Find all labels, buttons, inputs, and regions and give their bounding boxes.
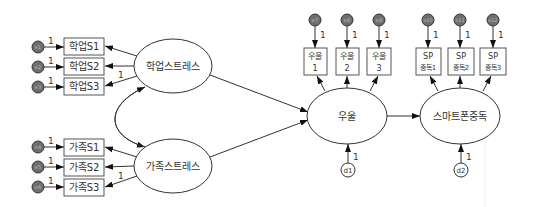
loading-label: 1 bbox=[118, 171, 124, 181]
loading-label: 1 bbox=[384, 30, 390, 40]
latent-academic-stress[interactable]: 학업스트레스 bbox=[134, 39, 212, 93]
loading-label: 1 bbox=[48, 136, 54, 146]
disturbance-label: d1 bbox=[344, 167, 353, 175]
error-label: e2 bbox=[35, 64, 41, 70]
disturbance-d2[interactable]: d2 1 bbox=[454, 144, 472, 177]
latent-label: 우울 bbox=[338, 111, 356, 122]
loading-label: 1 bbox=[465, 30, 471, 40]
error-label: e7 bbox=[312, 17, 318, 23]
indicator-label: 학업S3 bbox=[69, 80, 100, 92]
indicator-number: 3 bbox=[376, 64, 381, 73]
error-label: e9 bbox=[376, 17, 382, 23]
indicator-label: 우울 bbox=[372, 52, 386, 61]
latent-label: 학업스트레스 bbox=[146, 60, 200, 72]
loading-label: 1 bbox=[498, 30, 504, 40]
smartphone-indicator-1[interactable]: e10 1 SP 중독1 bbox=[416, 14, 441, 75]
academic-indicator-2[interactable]: e2 1 학업S2 bbox=[32, 56, 104, 75]
indicator-label: SP bbox=[488, 52, 498, 61]
loading-label: 1 bbox=[118, 70, 124, 80]
error-label: e12 bbox=[488, 17, 497, 23]
indicator-sublabel: 중독3 bbox=[485, 64, 501, 72]
error-label: e8 bbox=[344, 17, 350, 23]
loading-label: 1 bbox=[320, 30, 326, 40]
indicator-label: 가족S3 bbox=[69, 182, 100, 193]
latent-label: 가족스트레스 bbox=[146, 161, 200, 172]
latent-label: 스마트폰중독 bbox=[433, 111, 487, 122]
error-label: e4 bbox=[35, 144, 41, 150]
error-label: e5 bbox=[35, 164, 41, 170]
loading-label: 1 bbox=[352, 30, 358, 40]
depression-indicator-3[interactable]: e9 1 우울 3 bbox=[367, 14, 391, 75]
indicator-label: 학업S2 bbox=[69, 60, 100, 72]
family-indicator-2[interactable]: e5 1 가족S2 bbox=[32, 156, 104, 176]
indicator-label: 가족S1 bbox=[69, 142, 100, 153]
path-academic-to-depression bbox=[210, 75, 308, 112]
disturbance-d1[interactable]: d1 1 bbox=[341, 144, 359, 177]
academic-indicator-3[interactable]: e3 1 학업S3 bbox=[32, 76, 104, 95]
error-label: e6 bbox=[35, 184, 41, 190]
loading-label: 1 bbox=[48, 56, 54, 66]
loading-label: 1 bbox=[353, 152, 359, 162]
path-family-to-depression bbox=[210, 120, 308, 157]
error-label: e3 bbox=[35, 84, 41, 90]
indicator-label: 학업S1 bbox=[69, 40, 100, 52]
loading-label: 1 bbox=[48, 156, 54, 166]
smartphone-indicator-2[interactable]: e11 1 SP 중독2 bbox=[448, 14, 474, 75]
indicator-sublabel: 중독2 bbox=[453, 64, 469, 72]
loading-label: 1 bbox=[48, 176, 54, 186]
indicator-label: 가족S2 bbox=[69, 162, 100, 173]
loading-label: 1 bbox=[48, 36, 54, 46]
indicator-label: SP bbox=[456, 52, 466, 61]
error-label: e10 bbox=[423, 17, 432, 23]
indicator-number: 1 bbox=[312, 64, 317, 73]
indicator-number: 2 bbox=[344, 64, 349, 73]
smartphone-indicator-3[interactable]: e12 1 SP 중독3 bbox=[480, 14, 506, 75]
depression-indicator-2[interactable]: e8 1 우울 2 bbox=[336, 14, 359, 75]
family-indicator-1[interactable]: e4 1 가족S1 bbox=[32, 136, 104, 156]
academic-indicator-1[interactable]: e1 1 학업S1 bbox=[32, 36, 104, 55]
error-label: e11 bbox=[455, 17, 464, 23]
indicator-label: SP bbox=[423, 52, 433, 61]
loading-label: 1 bbox=[433, 30, 439, 40]
indicator-label: 우울 bbox=[340, 52, 354, 61]
latent-depression[interactable]: 우울 bbox=[307, 88, 387, 144]
error-label: e1 bbox=[35, 44, 41, 50]
indicator-label: 우울 bbox=[308, 52, 322, 61]
family-indicator-3[interactable]: e6 1 가족S3 bbox=[32, 176, 104, 196]
sem-diagram: e1 1 학업S1 e2 1 학업S2 e3 1 학업S3 1 e4 1 가족S… bbox=[0, 0, 535, 207]
loading-label: 1 bbox=[48, 76, 54, 86]
disturbance-label: d2 bbox=[457, 167, 466, 175]
latent-family-stress[interactable]: 가족스트레스 bbox=[134, 139, 212, 193]
indicator-sublabel: 중독1 bbox=[420, 64, 436, 72]
loading-label: 1 bbox=[466, 152, 472, 162]
latent-smartphone-addiction[interactable]: 스마트폰중독 bbox=[420, 88, 500, 144]
depression-indicator-1[interactable]: e7 1 우울 1 bbox=[304, 14, 327, 75]
